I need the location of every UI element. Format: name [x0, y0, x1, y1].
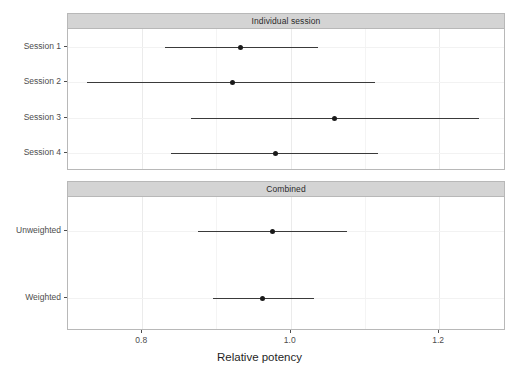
panel-individual-session: Individual session	[67, 13, 505, 170]
y-axis-tick-label: Session 2	[24, 77, 61, 86]
forest-plot-figure: Individual session Combined Session 1Ses…	[0, 0, 519, 372]
x-axis-tick-mark	[438, 330, 439, 333]
x-axis-tick-mark	[290, 330, 291, 333]
y-axis-tick-label: Session 4	[24, 148, 61, 157]
panel-combined: Combined	[67, 181, 505, 330]
y-axis-tick-label: Session 3	[24, 113, 61, 122]
gridline-major	[291, 197, 292, 329]
panel-strip-combined: Combined	[68, 182, 504, 197]
plot-area-individual-session	[68, 29, 504, 169]
gridline-minor	[365, 197, 366, 329]
x-axis-tick-mark	[141, 330, 142, 333]
gridline-minor	[216, 29, 217, 169]
y-axis-tick-mark	[64, 81, 67, 82]
gridline-major	[142, 197, 143, 329]
gridline-minor	[365, 29, 366, 169]
gridline-minor	[216, 197, 217, 329]
y-axis-tick-mark	[64, 152, 67, 153]
panel-strip-individual-session: Individual session	[68, 14, 504, 29]
y-axis-tick-mark	[64, 297, 67, 298]
point-estimate-marker	[273, 151, 278, 156]
gridline-major	[439, 29, 440, 169]
gridline-major	[291, 29, 292, 169]
y-axis-tick-label: Weighted	[25, 292, 61, 301]
point-estimate-marker	[332, 116, 337, 121]
panel-strip-label: Individual session	[252, 17, 321, 26]
point-estimate-marker	[238, 45, 243, 50]
gridline-major	[439, 197, 440, 329]
y-axis-tick-mark	[64, 230, 67, 231]
y-axis-tick-mark	[64, 117, 67, 118]
x-axis-tick-label: 1.2	[432, 336, 444, 345]
panel-strip-label: Combined	[266, 185, 306, 194]
y-axis-tick-label: Session 1	[24, 42, 61, 51]
x-axis-tick-label: 1.0	[284, 336, 296, 345]
point-estimate-marker	[260, 296, 265, 301]
gridline-major	[142, 29, 143, 169]
point-estimate-marker	[230, 80, 235, 85]
x-axis-tick-label: 0.8	[135, 336, 147, 345]
plot-area-combined	[68, 197, 504, 329]
y-axis-tick-mark	[64, 46, 67, 47]
y-axis-tick-label: Unweighted	[16, 225, 61, 234]
point-estimate-marker	[270, 229, 275, 234]
x-axis-title: Relative potency	[0, 352, 519, 364]
